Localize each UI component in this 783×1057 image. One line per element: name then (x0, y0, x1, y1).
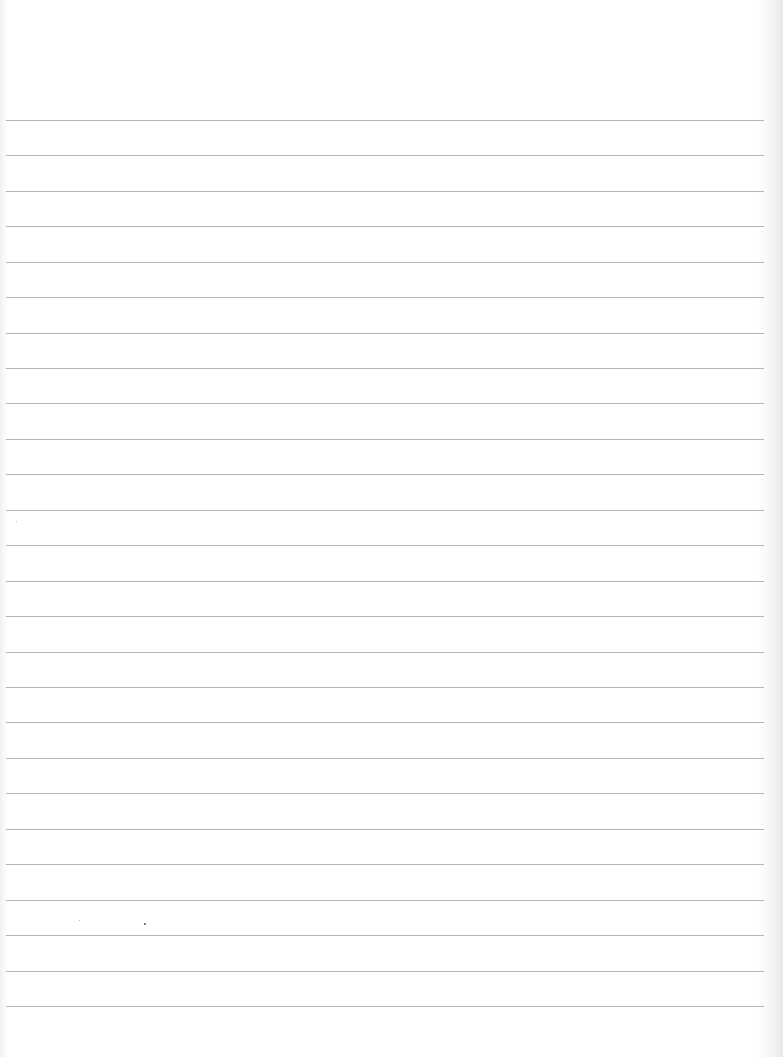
ruled-line (6, 864, 764, 865)
ruled-line (6, 829, 764, 830)
ruled-line (6, 368, 764, 369)
ruled-line (6, 120, 764, 121)
ruled-line (6, 900, 764, 901)
ruled-line (6, 545, 764, 546)
ruled-line (6, 616, 764, 617)
ruled-line (6, 510, 764, 511)
ruled-line (6, 226, 764, 227)
paper-speck (144, 923, 146, 925)
ruled-line (6, 971, 764, 972)
ruled-line (6, 403, 764, 404)
ruled-line (6, 687, 764, 688)
ruled-line (6, 474, 764, 475)
paper-speck (16, 521, 17, 522)
ruled-line (6, 652, 764, 653)
paper-left-edge (0, 0, 7, 1057)
ruled-line (6, 793, 764, 794)
ruled-line (6, 1006, 764, 1007)
paper-right-edge-shadow (757, 0, 783, 1057)
ruled-line (6, 758, 764, 759)
ruled-line (6, 722, 764, 723)
ruled-line (6, 581, 764, 582)
ruled-line (6, 155, 764, 156)
ruled-line (6, 297, 764, 298)
ruled-line (6, 439, 764, 440)
ruled-line (6, 262, 764, 263)
ruled-line (6, 191, 764, 192)
ruled-line (6, 333, 764, 334)
paper-speck (79, 920, 80, 921)
ruled-line (6, 935, 764, 936)
lined-paper-sheet (0, 0, 783, 1057)
